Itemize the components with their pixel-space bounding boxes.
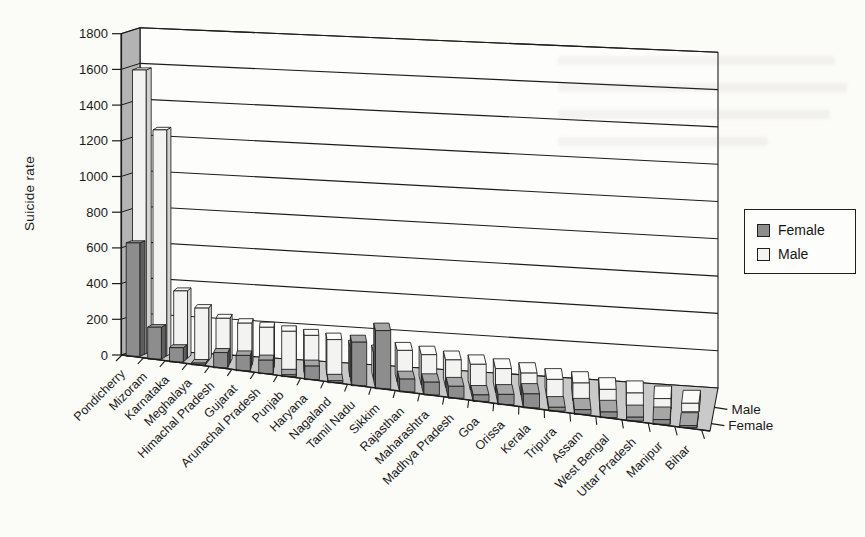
bar-female-tripura	[547, 397, 565, 412]
legend-item-male: Male	[757, 242, 855, 266]
category-tick	[369, 388, 371, 395]
bar-female-kerala	[521, 384, 539, 408]
bar-female-madhya-pradesh	[446, 377, 464, 398]
bar-male-punjab	[282, 326, 297, 370]
category-tick	[116, 355, 122, 361]
category-tick	[138, 358, 144, 364]
bar-male-west-bengal	[599, 378, 617, 404]
bar-male-assam	[572, 372, 590, 401]
chart-figure: 020040060080010001200140016001800Pondich…	[0, 0, 865, 537]
category-tick	[702, 430, 705, 439]
bar-female-bihar	[680, 413, 699, 428]
category-tick	[160, 361, 165, 367]
series-axis-tick	[714, 407, 727, 409]
category-tick	[321, 381, 324, 388]
bar-female-haryana	[304, 360, 319, 380]
category-tick	[227, 369, 231, 376]
bar-female-gujarat	[236, 351, 252, 371]
bar-male-manipur	[654, 386, 672, 409]
bar-female-manipur	[653, 407, 671, 424]
legend-label-male: Male	[778, 246, 808, 262]
category-tick	[570, 413, 571, 421]
category-tick	[205, 366, 210, 372]
bar-female-goa	[471, 386, 489, 402]
y-tick-label: 800	[86, 205, 108, 220]
bar-female-mizoram	[148, 325, 166, 360]
category-tick	[273, 375, 277, 382]
bar-female-pondicherry	[126, 241, 145, 356]
bar-female-orissa	[496, 385, 514, 405]
female-swatch-icon	[757, 224, 770, 237]
bar-female-rajasthan	[398, 371, 415, 392]
y-tick-label: 1200	[79, 133, 108, 148]
series-axis-label-female: Female	[728, 418, 773, 433]
y-tick-label: 0	[101, 348, 108, 363]
bar-female-himachal-pradesh	[214, 349, 230, 368]
bar-male-nagaland	[326, 333, 342, 375]
category-tick	[675, 427, 677, 436]
legend-item-female: Female	[757, 218, 855, 242]
y-axis-title: Suicide rate	[22, 129, 37, 259]
legend: Female Male	[744, 209, 856, 274]
bar-female-tamil-nadu	[350, 335, 366, 386]
category-tick	[393, 391, 395, 398]
bar-female-karnataka	[170, 345, 187, 362]
legend-label-female: Female	[778, 222, 825, 238]
y-tick-label: 1400	[79, 98, 108, 113]
bar-female-arunachal-pradesh	[259, 355, 274, 374]
y-tick-label: 1000	[79, 169, 108, 184]
category-tick	[345, 385, 348, 392]
y-tick-label: 1600	[79, 62, 108, 77]
bar-female-maharashtra	[422, 374, 440, 395]
bar-female-assam	[573, 398, 591, 414]
series-axis-label-male: Male	[731, 402, 760, 417]
y-tick-label: 200	[86, 312, 108, 327]
series-axis-tick	[711, 424, 724, 426]
bar-male-goa	[468, 355, 486, 390]
male-swatch-icon	[757, 248, 770, 261]
category-tick	[250, 372, 254, 379]
y-tick-label: 400	[86, 276, 108, 291]
bar-male-bihar	[682, 390, 701, 411]
y-tick-label: 600	[86, 240, 108, 255]
bar-male-uttar-pradesh	[626, 381, 643, 406]
x-label-bihar: Bihar	[662, 442, 693, 473]
category-tick	[443, 397, 444, 405]
category-tick	[648, 423, 650, 432]
category-tick	[493, 403, 494, 411]
bar-female-uttar-pradesh	[627, 405, 644, 421]
category-tick	[468, 400, 469, 408]
bar-male-mizoram	[153, 127, 171, 356]
suicide-rate-3d-bar-chart: 020040060080010001200140016001800Pondich…	[0, 0, 865, 537]
category-tick	[297, 378, 301, 385]
bar-male-meghalaya	[195, 305, 212, 361]
category-tick	[622, 420, 623, 428]
category-tick	[182, 364, 187, 370]
bar-male-tripura	[545, 369, 563, 398]
bar-female-west-bengal	[600, 400, 618, 417]
category-tick	[596, 417, 597, 425]
bar-female-sikkim	[374, 323, 391, 389]
category-tick	[418, 394, 420, 401]
y-tick-label: 1800	[79, 26, 108, 41]
